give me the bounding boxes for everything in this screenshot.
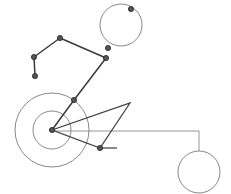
diagram-svg: [0, 0, 231, 194]
wedge-triangle: [52, 103, 130, 148]
wedge-layer: [52, 103, 130, 148]
node-wedge-base: [97, 145, 102, 150]
bottom-right-circle: [178, 151, 220, 193]
node-top-circle-marker: [128, 6, 133, 11]
node-chain-upper-joint: [105, 45, 110, 50]
node-chain-apex: [57, 35, 62, 40]
diagram-canvas: [0, 0, 231, 194]
linkage-layer: [34, 38, 106, 130]
circles-layer: [15, 4, 220, 193]
top-circle: [100, 4, 142, 46]
horizontal-connector: [52, 131, 199, 151]
node-chain-right: [103, 55, 108, 60]
node-hub-center: [49, 127, 54, 132]
node-chain-end: [32, 73, 37, 78]
node-chain-mid: [71, 97, 76, 102]
nodes-layer: [31, 6, 133, 150]
linkage-polyline: [34, 38, 106, 130]
connector-layer: [52, 131, 199, 151]
node-chain-lower-left: [31, 54, 36, 59]
